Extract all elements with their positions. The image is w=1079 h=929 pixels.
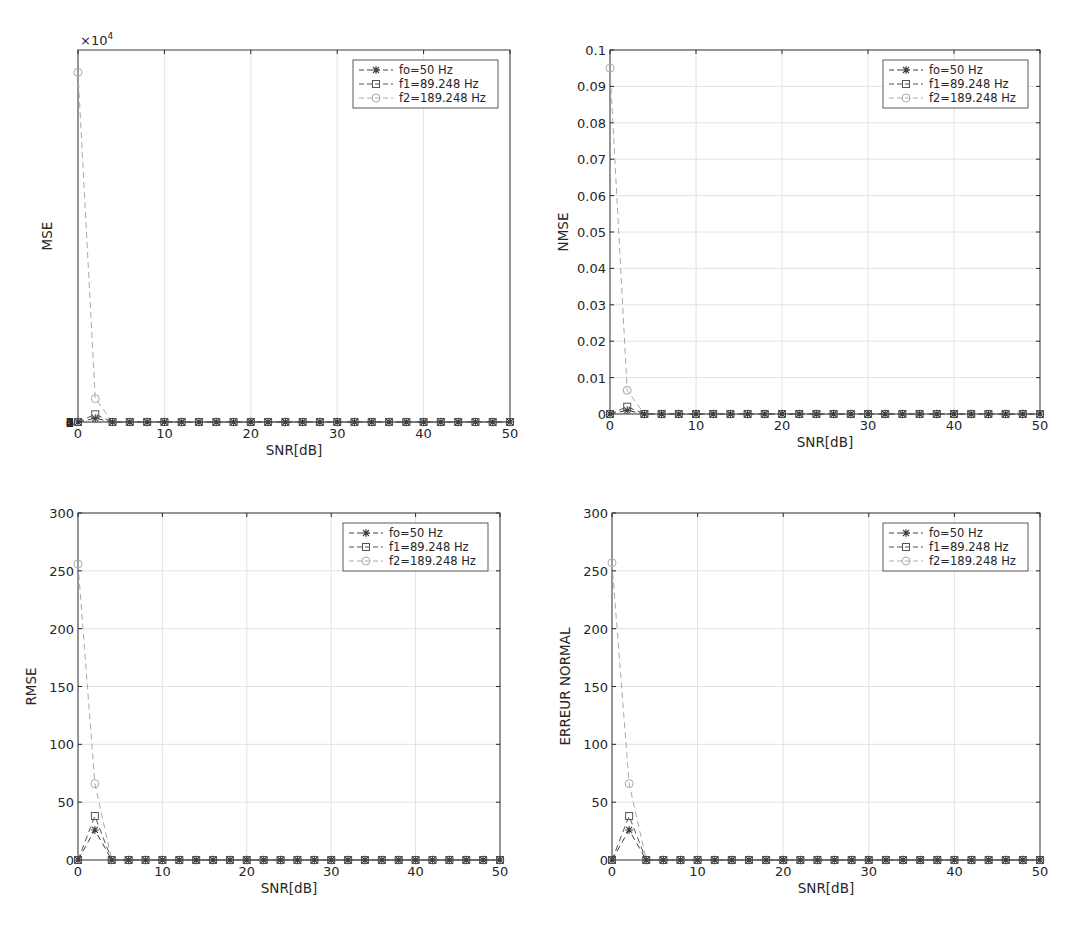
x-tick-label: 30: [860, 418, 877, 433]
asterisk-marker-icon: [899, 856, 907, 864]
asterisk-marker-icon: [91, 826, 99, 834]
series-line: [78, 816, 500, 860]
y-tick-label: 50: [591, 795, 608, 810]
asterisk-marker-icon: [385, 418, 393, 426]
asterisk-marker-icon: [126, 418, 134, 426]
asterisk-marker-icon: [281, 418, 289, 426]
exponent-power: 4: [107, 31, 113, 41]
asterisk-marker-icon: [361, 856, 369, 864]
figure-canvas: 0102030405001234567×104SNR[dB]MSEfo=50 H…: [0, 0, 1079, 929]
asterisk-marker-icon: [350, 418, 358, 426]
y-tick-label: 200: [49, 622, 74, 637]
asterisk-marker-icon: [984, 410, 992, 418]
x-tick-label: 40: [407, 864, 424, 879]
asterisk-marker-icon: [160, 418, 168, 426]
asterisk-marker-icon: [608, 856, 616, 864]
asterisk-marker-icon: [744, 410, 752, 418]
legend-entry-label: f2=189.248 Hz: [929, 554, 1016, 568]
y-tick-label: 250: [49, 564, 74, 579]
asterisk-marker-icon: [1036, 856, 1044, 864]
asterisk-marker-icon: [368, 418, 376, 426]
y-tick-label: 0: [66, 853, 74, 868]
asterisk-marker-icon: [175, 856, 183, 864]
legend-asterisk-icon: [372, 66, 380, 74]
asterisk-marker-icon: [881, 410, 889, 418]
asterisk-marker-icon: [623, 406, 631, 414]
asterisk-marker-icon: [1019, 410, 1027, 418]
asterisk-marker-icon: [933, 856, 941, 864]
x-tick-label: 50: [1032, 418, 1049, 433]
asterisk-marker-icon: [74, 856, 82, 864]
asterisk-marker-icon: [209, 856, 217, 864]
legend-entry-label: f2=189.248 Hz: [399, 91, 486, 105]
exponent-base: ×10: [80, 33, 107, 48]
asterisk-marker-icon: [813, 856, 821, 864]
asterisk-marker-icon: [882, 856, 890, 864]
asterisk-marker-icon: [779, 856, 787, 864]
asterisk-marker-icon: [143, 418, 151, 426]
y-tick-label: 300: [49, 506, 74, 521]
series-f1: [75, 813, 504, 864]
asterisk-marker-icon: [247, 418, 255, 426]
asterisk-marker-icon: [91, 414, 99, 422]
asterisk-marker-icon: [795, 410, 803, 418]
x-tick-label: 50: [492, 864, 509, 879]
asterisk-marker-icon: [694, 856, 702, 864]
asterisk-marker-icon: [1019, 856, 1027, 864]
y-tick-label: 0.06: [577, 189, 606, 204]
asterisk-marker-icon: [260, 856, 268, 864]
x-tick-label: 10: [688, 418, 705, 433]
legend-entry-label: f1=89.248 Hz: [929, 77, 1009, 91]
series-f1: [609, 813, 1044, 864]
nmse-plot: 0102030405000.010.020.030.040.050.060.07…: [555, 43, 1048, 450]
asterisk-marker-icon: [967, 410, 975, 418]
series-line: [78, 830, 500, 860]
x-tick-label: 20: [239, 864, 256, 879]
y-tick-label: 0.1: [585, 43, 606, 58]
y-axis-label: NMSE: [555, 213, 571, 252]
asterisk-marker-icon: [916, 410, 924, 418]
legend-entry-label: f1=89.248 Hz: [389, 540, 469, 554]
y-tick-label: 7: [66, 415, 74, 430]
asterisk-marker-icon: [865, 856, 873, 864]
asterisk-marker-icon: [496, 856, 504, 864]
asterisk-marker-icon: [402, 418, 410, 426]
asterisk-marker-icon: [109, 418, 117, 426]
series-f1: [75, 411, 514, 426]
series-line: [610, 68, 1040, 414]
x-tick-label: 40: [946, 864, 963, 879]
x-tick-label: 10: [156, 426, 173, 441]
square-marker-icon: [91, 813, 98, 820]
asterisk-marker-icon: [212, 418, 220, 426]
legend-entry-label: f2=189.248 Hz: [929, 91, 1016, 105]
asterisk-marker-icon: [728, 856, 736, 864]
y-tick-label: 0.04: [577, 261, 606, 276]
asterisk-marker-icon: [950, 410, 958, 418]
series-line: [78, 72, 510, 422]
y-tick-label: 0.09: [577, 79, 606, 94]
asterisk-marker-icon: [454, 418, 462, 426]
asterisk-marker-icon: [796, 856, 804, 864]
legend-entry-label: fo=50 Hz: [929, 63, 983, 77]
asterisk-marker-icon: [506, 418, 514, 426]
asterisk-marker-icon: [659, 856, 667, 864]
asterisk-marker-icon: [898, 410, 906, 418]
series-line: [612, 830, 1040, 860]
legend-entry-label: f2=189.248 Hz: [389, 554, 476, 568]
x-tick-label: 0: [608, 864, 616, 879]
series-f2: [606, 64, 1044, 418]
asterisk-marker-icon: [264, 418, 272, 426]
x-tick-label: 20: [775, 864, 792, 879]
x-tick-label: 0: [74, 426, 82, 441]
asterisk-marker-icon: [762, 856, 770, 864]
x-axis-label: SNR[dB]: [798, 880, 854, 896]
x-tick-label: 40: [946, 418, 963, 433]
x-axis-label: SNR[dB]: [266, 442, 322, 458]
asterisk-marker-icon: [412, 856, 420, 864]
asterisk-marker-icon: [445, 856, 453, 864]
x-tick-label: 30: [329, 426, 346, 441]
asterisk-marker-icon: [327, 856, 335, 864]
x-tick-label: 40: [415, 426, 432, 441]
series-line: [78, 564, 500, 860]
rmse-plot: 01020304050050100150200250300SNR[dB]RMSE…: [23, 506, 508, 896]
